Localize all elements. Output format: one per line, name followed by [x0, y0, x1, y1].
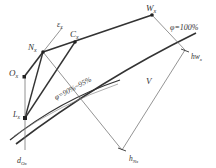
label-o: Ox [9, 68, 19, 79]
point-n [41, 50, 45, 54]
label-phi-100: φ=100% [170, 23, 199, 32]
label-v: V [146, 76, 153, 86]
point-c [73, 40, 77, 44]
label-w: Wx [146, 3, 157, 14]
enthalpy-line-w [152, 15, 185, 50]
label-l: Lx [12, 110, 20, 120]
label-c: Cx [70, 29, 79, 40]
enthalpy-line-n [43, 52, 122, 150]
psychrometric-diagram: Wx Cx Nx Ox Lx εx φ=100% φ=90%~95% V hwx… [0, 0, 216, 168]
label-phi-90-95: φ=90%~95% [53, 75, 93, 102]
line-l-n [25, 52, 43, 118]
dimension-line-v [122, 50, 185, 150]
point-l [23, 116, 27, 120]
label-n: Nx [27, 42, 37, 53]
tick-hn [118, 148, 126, 151]
label-hn: hNx [129, 154, 139, 164]
label-epsilon: εx [57, 20, 63, 30]
point-o [23, 75, 27, 79]
label-hw: hwx [191, 52, 203, 62]
diagram-svg: Wx Cx Nx Ox Lx εx φ=100% φ=90%~95% V hwx… [0, 0, 216, 168]
label-do: dOx [17, 156, 28, 166]
tick-hw [181, 49, 189, 52]
